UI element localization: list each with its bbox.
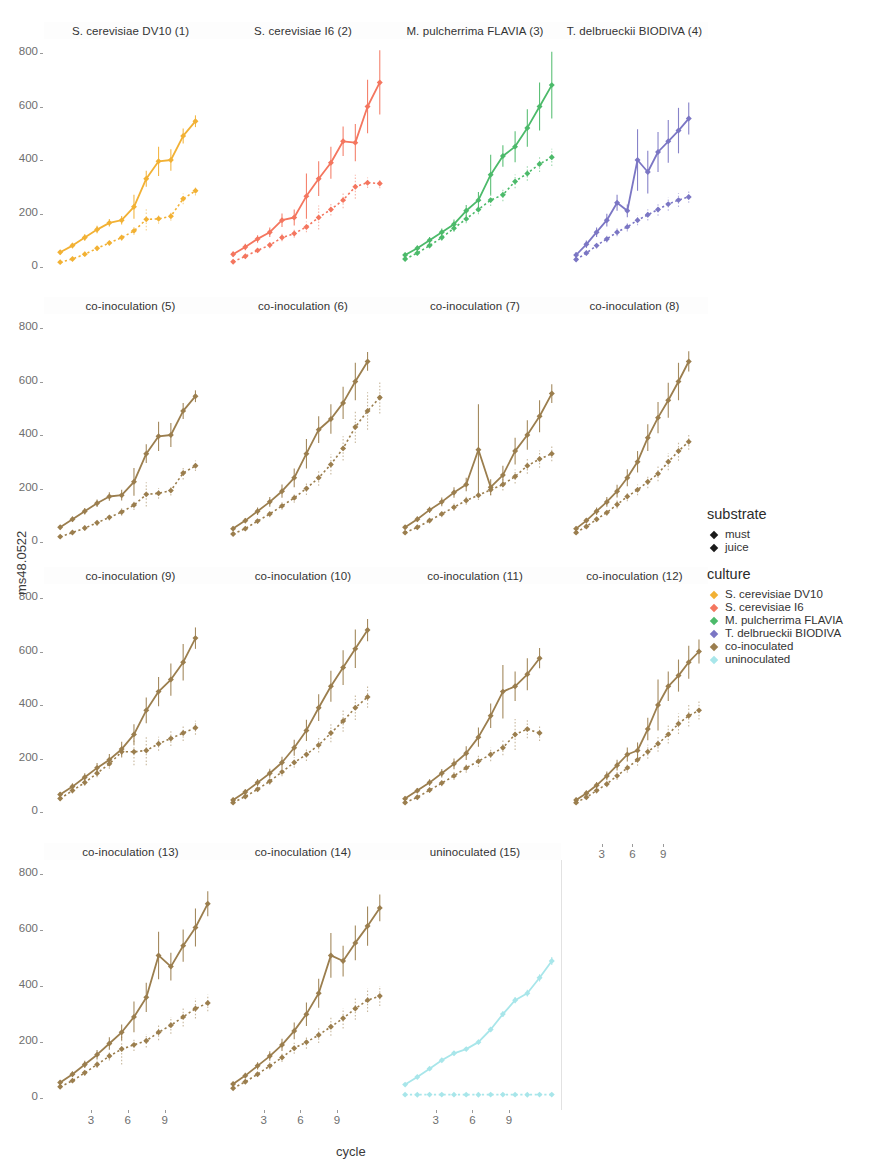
data-point-juice bbox=[463, 1092, 469, 1098]
x-tick-mark bbox=[165, 1110, 166, 1113]
y-axis-tick: 400 bbox=[0, 427, 38, 439]
legend-item-t-delbrueckii-biodiva[interactable]: T. delbrueckii BIODIVA bbox=[707, 627, 841, 640]
error-bars-must bbox=[430, 957, 552, 1070]
facet-label: co-inoculation (6) bbox=[258, 300, 348, 312]
x-tick-mark bbox=[300, 1110, 301, 1113]
data-point-juice bbox=[402, 256, 408, 262]
legend-item-must[interactable]: must bbox=[707, 528, 750, 541]
x-axis-tick: 3 bbox=[79, 1114, 103, 1126]
error-bars-juice bbox=[576, 434, 689, 535]
data-point-juice bbox=[676, 197, 682, 203]
facet-label: co-inoculation (5) bbox=[85, 300, 175, 312]
data-point-juice bbox=[106, 1053, 112, 1059]
error-bars-must bbox=[233, 619, 367, 802]
data-point-juice bbox=[180, 730, 186, 736]
y-axis-tick: 600 bbox=[0, 374, 38, 386]
data-point-juice bbox=[573, 257, 579, 263]
y-axis-tick: 800 bbox=[0, 45, 38, 57]
y-axis-tick: 200 bbox=[0, 206, 38, 218]
y-axis-title: ms48.0522 bbox=[14, 531, 29, 595]
data-point-juice bbox=[242, 253, 248, 259]
x-axis-tick: 9 bbox=[651, 848, 675, 860]
legend-label: S. cerevisiae DV10 bbox=[725, 588, 823, 601]
legend-item-juice[interactable]: juice bbox=[707, 541, 749, 554]
data-point-juice bbox=[94, 245, 100, 251]
error-bars-juice bbox=[60, 186, 195, 264]
data-point-juice bbox=[119, 509, 125, 515]
x-tick-mark bbox=[436, 1110, 437, 1113]
legend-label: must bbox=[725, 528, 750, 541]
series-line-must bbox=[405, 658, 539, 798]
data-point-juice bbox=[168, 488, 174, 494]
data-point-juice bbox=[328, 461, 334, 467]
facet-panel-13 bbox=[44, 860, 218, 1110]
data-point-juice bbox=[156, 741, 162, 747]
data-point-juice bbox=[192, 725, 198, 731]
data-point-juice bbox=[402, 800, 408, 806]
facet-strip-8: co-inoculation (8) bbox=[561, 297, 708, 315]
data-point-juice bbox=[439, 511, 445, 517]
data-point-juice bbox=[500, 1092, 506, 1098]
series-line-must bbox=[233, 630, 368, 800]
y-tick-mark bbox=[40, 598, 43, 599]
series-line-juice bbox=[60, 191, 195, 262]
series-line-juice bbox=[60, 728, 195, 799]
series-line-must bbox=[233, 908, 380, 1084]
data-point-juice bbox=[414, 1092, 420, 1098]
x-axis-tick: 6 bbox=[116, 1114, 140, 1126]
facet-label: uninoculated (15) bbox=[430, 846, 521, 858]
data-point-juice bbox=[696, 707, 702, 713]
y-axis-tick: 600 bbox=[0, 99, 38, 111]
y-axis-tick: 200 bbox=[0, 751, 38, 763]
data-point-juice bbox=[451, 1092, 457, 1098]
x-axis-tick: 6 bbox=[288, 1114, 312, 1126]
data-point-juice bbox=[340, 445, 346, 451]
legend-label: M. pulcherrima FLAVIA bbox=[725, 614, 843, 627]
data-point-must bbox=[192, 635, 198, 641]
legend-title-culture: culture bbox=[707, 566, 751, 582]
facet-strip-12: co-inoculation (12) bbox=[561, 567, 708, 585]
diamond-icon bbox=[707, 588, 720, 601]
x-tick-mark bbox=[91, 1110, 92, 1113]
facet-label: M. pulcherrima FLAVIA (3) bbox=[406, 25, 543, 37]
legend-item-m-pulcherrima-flavia[interactable]: M. pulcherrima FLAVIA bbox=[707, 614, 843, 627]
x-axis-tick: 3 bbox=[424, 1114, 448, 1126]
y-tick-mark bbox=[40, 542, 43, 543]
y-tick-mark bbox=[40, 1042, 43, 1043]
data-point-juice bbox=[70, 1078, 76, 1084]
data-point-juice bbox=[352, 184, 358, 190]
data-point-juice bbox=[686, 194, 692, 200]
facet-label: co-inoculation (11) bbox=[427, 570, 523, 582]
legend-item-s-cerevisiae-i6[interactable]: S. cerevisiae I6 bbox=[707, 601, 804, 614]
series-line-must bbox=[60, 638, 195, 795]
series-line-must bbox=[60, 121, 195, 252]
legend-label: T. delbrueckii BIODIVA bbox=[725, 627, 841, 640]
data-point-juice bbox=[143, 491, 149, 497]
data-point-juice bbox=[524, 1092, 530, 1098]
data-point-must bbox=[205, 901, 211, 907]
data-point-juice bbox=[500, 745, 506, 751]
data-point-juice bbox=[57, 534, 63, 540]
data-point-juice bbox=[549, 154, 555, 160]
legend-item-co-inoculated[interactable]: co-inoculated bbox=[707, 640, 793, 653]
diamond-icon bbox=[707, 653, 720, 666]
data-point-juice bbox=[537, 456, 543, 462]
facet-plot-10 bbox=[217, 584, 389, 824]
series-line-juice bbox=[405, 729, 539, 803]
x-axis-tick: 9 bbox=[325, 1114, 349, 1126]
legend-item-uninoculated[interactable]: uninoculated bbox=[707, 653, 790, 666]
facet-plot-8 bbox=[561, 314, 708, 554]
data-point-juice bbox=[594, 243, 600, 249]
facet-panel-2 bbox=[217, 39, 390, 279]
data-point-juice bbox=[156, 1029, 162, 1035]
facet-strip-14: co-inoculation (14) bbox=[217, 843, 389, 861]
data-point-juice bbox=[512, 1092, 518, 1098]
y-tick-mark bbox=[40, 267, 43, 268]
facet-label: S. cerevisiae DV10 (1) bbox=[72, 25, 189, 37]
data-point-juice bbox=[594, 516, 600, 522]
y-tick-mark bbox=[40, 328, 43, 329]
series-line-juice bbox=[576, 442, 689, 533]
legend-item-s-cerevisiae-dv10[interactable]: S. cerevisiae DV10 bbox=[707, 588, 823, 601]
y-axis-tick: 400 bbox=[0, 697, 38, 709]
y-axis-tick: 800 bbox=[0, 320, 38, 332]
